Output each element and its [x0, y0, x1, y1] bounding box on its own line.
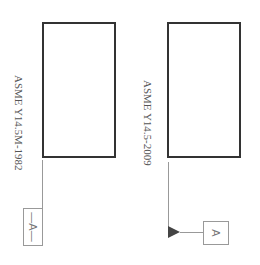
- left-part-rectangle: [43, 23, 115, 157]
- datum-comparison-diagram: —A— ASME Y14.5M-1982 A ASME Y14.5-2009: [0, 0, 260, 265]
- right-standard-label: ASME Y14.5-2009: [142, 80, 154, 166]
- right-diagram-2009: A ASME Y14.5-2009: [142, 23, 240, 245]
- left-diagram-1982: —A— ASME Y14.5M-1982: [13, 23, 115, 246]
- right-datum-label: A: [210, 229, 222, 237]
- left-datum-label: —A—: [27, 212, 39, 241]
- left-standard-label: ASME Y14.5M-1982: [13, 75, 25, 171]
- right-part-rectangle: [168, 23, 240, 157]
- datum-triangle-icon: [168, 226, 180, 238]
